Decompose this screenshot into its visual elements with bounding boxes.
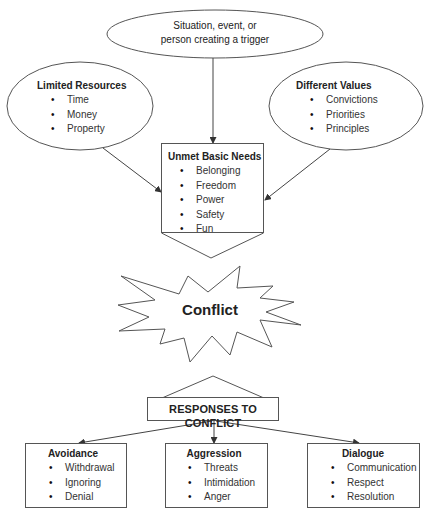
dialogue-group: Dialogue Communication Respect Resolutio… bbox=[318, 447, 418, 505]
list-item: Belonging bbox=[174, 164, 264, 179]
aggression-title: Aggression bbox=[175, 447, 253, 461]
arrow-resources-to-needs bbox=[103, 148, 161, 192]
list-item: Threats bbox=[182, 461, 267, 476]
list-item: Money bbox=[45, 108, 147, 123]
different-values-list: Convictions Priorities Principles bbox=[304, 93, 421, 137]
limited-resources-group: Limited Resources Time Money Property bbox=[37, 79, 147, 137]
aggression-group: Aggression Threats Intimidation Anger bbox=[175, 447, 267, 505]
diagram-canvas bbox=[0, 0, 431, 520]
different-values-title: Different Values bbox=[296, 79, 421, 93]
dialogue-title: Dialogue bbox=[328, 447, 398, 461]
list-item: Resolution bbox=[325, 490, 418, 505]
list-item: Anger bbox=[182, 490, 267, 505]
unmet-needs-title: Unmet Basic Needs bbox=[168, 150, 264, 164]
list-item: Property bbox=[45, 122, 147, 137]
list-item: Ignoring bbox=[43, 476, 125, 491]
unmet-needs-list: Belonging Freedom Power Safety Fun bbox=[174, 164, 264, 237]
avoidance-group: Avoidance Withdrawal Ignoring Denial bbox=[33, 447, 125, 505]
list-item: Communication bbox=[325, 461, 418, 476]
list-item: Convictions bbox=[304, 93, 421, 108]
arrow-values-to-needs bbox=[265, 149, 330, 200]
limited-resources-title: Limited Resources bbox=[37, 79, 147, 93]
avoidance-title: Avoidance bbox=[33, 447, 113, 461]
list-item: Time bbox=[45, 93, 147, 108]
list-item: Safety bbox=[174, 208, 264, 223]
trigger-label: Situation, event, or person creating a t… bbox=[130, 19, 300, 47]
list-item: Intimidation bbox=[182, 476, 267, 491]
list-item: Denial bbox=[43, 490, 125, 505]
list-item: Withdrawal bbox=[43, 461, 125, 476]
unmet-needs-group: Unmet Basic Needs Belonging Freedom Powe… bbox=[168, 150, 264, 237]
list-item: Priorities bbox=[304, 108, 421, 123]
responses-label: RESPONSES TO CONFLICT bbox=[148, 402, 278, 430]
avoidance-list: Withdrawal Ignoring Denial bbox=[43, 461, 125, 505]
up-chevron-shape bbox=[162, 376, 264, 398]
list-item: Respect bbox=[325, 476, 418, 491]
down-chevron-shape bbox=[162, 233, 264, 258]
aggression-list: Threats Intimidation Anger bbox=[182, 461, 267, 505]
list-item: Fun bbox=[174, 222, 264, 237]
conflict-label: Conflict bbox=[170, 301, 250, 319]
trigger-line-2: person creating a trigger bbox=[130, 33, 300, 47]
different-values-group: Different Values Convictions Priorities … bbox=[296, 79, 421, 137]
limited-resources-list: Time Money Property bbox=[45, 93, 147, 137]
trigger-line-1: Situation, event, or bbox=[130, 19, 300, 33]
list-item: Freedom bbox=[174, 179, 264, 194]
list-item: Principles bbox=[304, 122, 421, 137]
list-item: Power bbox=[174, 193, 264, 208]
dialogue-list: Communication Respect Resolution bbox=[325, 461, 418, 505]
